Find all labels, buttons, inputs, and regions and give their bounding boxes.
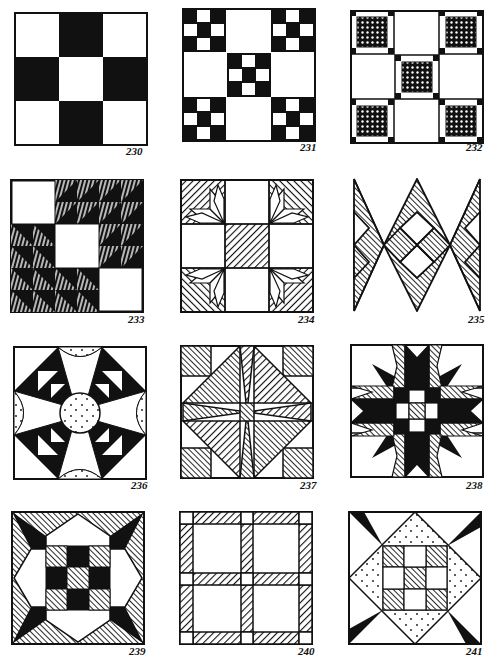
block-number-230: 230 <box>126 146 143 157</box>
quilt-block-231 <box>182 8 316 142</box>
quilt-block-230 <box>14 12 148 146</box>
quilt-block-235 <box>350 178 484 312</box>
quilt-block-232 <box>350 10 484 144</box>
block-number-241: 241 <box>466 646 483 657</box>
block-number-238: 238 <box>466 480 483 491</box>
block-number-232: 232 <box>466 142 483 153</box>
block-number-240: 240 <box>298 646 315 657</box>
quilt-block-240 <box>179 511 313 645</box>
quilt-block-237 <box>180 345 314 479</box>
block-number-236: 236 <box>131 480 148 491</box>
quilt-block-236 <box>13 346 147 480</box>
block-number-239: 239 <box>129 646 146 657</box>
quilt-block-233 <box>10 179 144 313</box>
quilt-block-241 <box>348 511 482 645</box>
block-number-234: 234 <box>298 314 315 325</box>
block-number-233: 233 <box>128 314 145 325</box>
quilt-block-239 <box>11 511 145 645</box>
block-number-237: 237 <box>300 480 317 491</box>
block-number-231: 231 <box>300 142 317 153</box>
quilt-block-234 <box>180 179 314 313</box>
block-number-235: 235 <box>468 314 485 325</box>
quilt-block-238 <box>350 344 484 478</box>
